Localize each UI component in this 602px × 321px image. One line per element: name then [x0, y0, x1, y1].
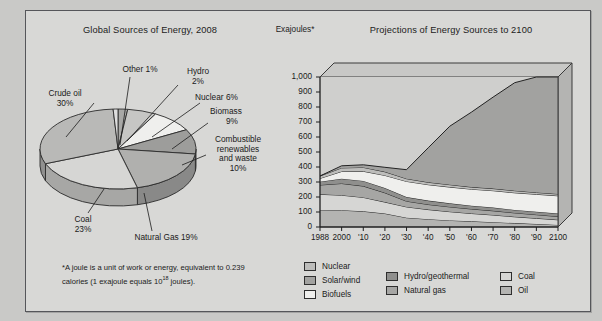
legend-column-3: CoalOil [500, 271, 535, 299]
pie-label-crude-oil: Crude oil 30% [34, 89, 96, 108]
pie-label-combustible-l4: 10% [208, 164, 268, 174]
pie-label-hydro-l2: 2% [174, 77, 222, 87]
legend-item-hydro-geothermal[interactable]: Hydro/geothermal [386, 271, 469, 282]
footnote-text: *A joule is a unit of work or energy, eq… [62, 263, 245, 286]
pie-label-nuclear: Nuclear 6% [195, 93, 265, 103]
y-tick-label: 800 [272, 102, 312, 111]
pie-label-hydro: Hydro 2% [174, 67, 222, 86]
x-tick-label: 2100 [541, 233, 575, 242]
pie-label-biomass-l1: Biomass [210, 107, 266, 117]
y-tick-label: 300 [272, 177, 312, 186]
legend-item-natural-gas[interactable]: Natural gas [386, 285, 469, 296]
legend-label: Biofuels [322, 290, 351, 299]
legend-swatch-icon [500, 286, 512, 295]
y-tick-label: 600 [272, 132, 312, 141]
legend-item-biofuels[interactable]: Biofuels [304, 289, 360, 300]
pie-label-biomass-l2: 9% [210, 117, 254, 127]
pie-label-natural-gas-text: Natural Gas 19% [134, 232, 197, 242]
pie-chart: Other 1% Hydro 2% Crude oil 30% Nuclear … [32, 37, 268, 247]
chart-top-face [320, 63, 572, 77]
y-tick-label: 900 [272, 87, 312, 96]
chart-panels: Global Sources of Energy, 2008 Exajoules… [26, 11, 592, 259]
legend-label: Natural gas [404, 286, 446, 295]
y-tick-label: 500 [272, 147, 312, 156]
chart-legend: NuclearSolar/windBiofuels Hydro/geotherm… [274, 261, 582, 305]
legend-swatch-icon [304, 262, 316, 271]
legend-column-2: Hydro/geothermalNatural gas [386, 271, 469, 299]
legend-label: Solar/wind [322, 276, 360, 285]
legend-label: Oil [518, 286, 528, 295]
area-chart: 01002003004005006007008009001,000 198820… [272, 37, 588, 253]
legend-swatch-icon [386, 272, 398, 281]
chart-right-face [558, 63, 572, 227]
legend-swatch-icon [500, 272, 512, 281]
legend-label: Hydro/geothermal [404, 272, 469, 281]
y-tick-label: 700 [272, 117, 312, 126]
legend-item-coal[interactable]: Coal [500, 271, 535, 282]
legend-item-nuclear[interactable]: Nuclear [304, 261, 360, 272]
pie-label-other-text: Other 1% [122, 64, 157, 74]
area-chart-svg [272, 37, 588, 253]
pie-label-coal: Coal 23% [60, 215, 106, 234]
figure-root: Global energy supplied by source, 2008 (… [0, 0, 602, 321]
y-tick-label: 100 [272, 207, 312, 216]
pie-label-crude-oil-l2: 30% [34, 99, 96, 109]
legend-item-oil[interactable]: Oil [500, 285, 535, 296]
pie-label-natural-gas: Natural Gas 19% [114, 233, 218, 243]
footnote-tail: joules). [168, 277, 195, 286]
source-credit: Global energy supplied by source, 2008 (… [0, 0, 24, 321]
pie-label-biomass: Biomass 9% [210, 107, 266, 126]
pie-label-coal-l2: 23% [60, 225, 106, 235]
pie-label-nuclear-text: Nuclear 6% [195, 92, 238, 102]
y-tick-label: 1,000 [272, 72, 312, 81]
legend-swatch-icon [386, 286, 398, 295]
y-tick-label: 400 [272, 162, 312, 171]
legend-swatch-icon [304, 290, 316, 299]
legend-swatch-icon [304, 276, 316, 285]
legend-item-solar-wind[interactable]: Solar/wind [304, 275, 360, 286]
pie-chart-title: Global Sources of Energy, 2008 [34, 25, 266, 35]
y-axis-label: Exajoules* [262, 25, 328, 34]
legend-label: Coal [518, 272, 535, 281]
footnote: *A joule is a unit of work or energy, eq… [62, 263, 267, 287]
area-chart-title: Projections of Energy Sources to 2100 [326, 25, 576, 35]
y-tick-label: 200 [272, 192, 312, 201]
y-tick-label: 0 [272, 222, 312, 231]
pie-label-other: Other 1% [108, 65, 172, 75]
pie-label-combustible: Combustible renewables and waste 10% [208, 135, 268, 173]
figure-frame: Global Sources of Energy, 2008 Exajoules… [25, 10, 591, 312]
legend-label: Nuclear [322, 262, 350, 271]
legend-column-1: NuclearSolar/windBiofuels [304, 261, 360, 303]
